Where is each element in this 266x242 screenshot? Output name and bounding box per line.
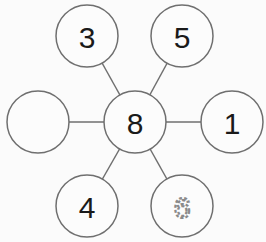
number-bottom-right: 6	[174, 191, 191, 224]
number-bond-diagram: 835146	[0, 0, 266, 242]
node-top-right: 5	[151, 5, 213, 67]
number-bottom-left: 4	[79, 191, 96, 224]
node-bottom-right: 6	[151, 175, 213, 237]
node-center: 8	[104, 91, 166, 153]
node-right: 1	[201, 91, 263, 153]
node-bottom-left: 4	[56, 175, 118, 237]
node-top-left: 3	[56, 5, 118, 67]
number-top-left: 3	[79, 21, 96, 54]
node-left[interactable]	[7, 91, 69, 153]
number-top-right: 5	[174, 21, 191, 54]
number-right: 1	[224, 107, 241, 140]
number-center: 8	[127, 107, 144, 140]
circle-left	[7, 91, 69, 153]
